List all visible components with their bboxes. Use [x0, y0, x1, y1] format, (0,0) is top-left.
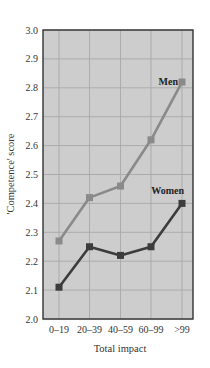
y-tick-label: 2.7 [26, 111, 39, 122]
y-tick-label: 2.4 [26, 198, 39, 209]
square-marker-icon [179, 200, 186, 207]
x-axis-ticks: 0–1920–3940–5960–99>99 [49, 324, 190, 335]
square-marker-icon [117, 252, 124, 259]
x-tick-label: 40–59 [108, 324, 133, 335]
square-marker-icon [86, 194, 93, 201]
square-marker-icon [117, 183, 124, 190]
square-marker-icon [56, 237, 63, 244]
y-tick-label: 2.8 [26, 82, 39, 93]
y-tick-label: 2.0 [26, 314, 39, 325]
y-tick-label: 2.5 [26, 169, 39, 180]
square-marker-icon [86, 243, 93, 250]
x-axis-title: Total impact [94, 343, 147, 354]
x-tick-label: 0–19 [49, 324, 69, 335]
y-tick-label: 2.9 [26, 53, 39, 64]
x-tick-label: 60–99 [139, 324, 164, 335]
y-tick-label: 3.0 [26, 25, 39, 36]
square-marker-icon [148, 243, 155, 250]
x-tick-label: 20–39 [77, 324, 102, 335]
y-tick-label: 2.3 [26, 227, 39, 238]
line-chart: MenWomen 2.02.12.22.32.42.52.62.72.82.93… [0, 0, 210, 368]
square-marker-icon [56, 284, 63, 291]
x-tick-label: >99 [174, 324, 190, 335]
y-tick-label: 2.6 [26, 140, 39, 151]
y-axis-ticks: 2.02.12.22.32.42.52.62.72.82.93.0 [26, 25, 39, 325]
y-axis-title: 'Competence' score [5, 133, 16, 214]
square-marker-icon [179, 79, 186, 86]
square-marker-icon [148, 136, 155, 143]
series-label-women: Women [151, 185, 184, 196]
y-tick-label: 2.2 [26, 256, 39, 267]
y-tick-label: 2.1 [26, 285, 39, 296]
series-label-men: Men [159, 76, 179, 87]
